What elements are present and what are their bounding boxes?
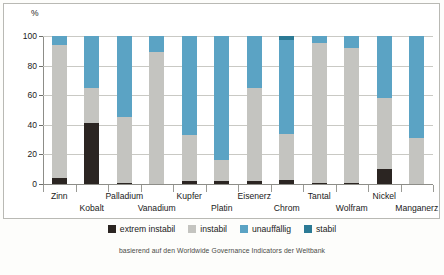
bar-segment [182, 181, 197, 184]
x-axis-label-eisenerz: Eisenerz [238, 191, 271, 201]
x-axis-tick [433, 185, 434, 192]
x-axis-label-manganerz: Manganerz [395, 203, 438, 213]
bar-manganerz [409, 36, 424, 184]
y-tick-mark-40 [39, 125, 43, 126]
bar-segment [52, 45, 67, 178]
bar-segment [279, 134, 294, 180]
bar-vanadium [149, 36, 164, 184]
bar-nickel [377, 36, 392, 184]
bar-zinn [52, 36, 67, 184]
bar-segment [84, 123, 99, 184]
y-tick-label-40: 40 [15, 120, 37, 130]
bar-segment [312, 183, 327, 184]
legend-label: extrem instabil [120, 224, 175, 234]
legend-swatch-icon [108, 225, 116, 233]
bar-kupfer [182, 36, 197, 184]
bar-chrom [279, 36, 294, 184]
y-tick-label-60: 60 [15, 90, 37, 100]
bar-segment [279, 40, 294, 133]
legend-swatch-icon [188, 225, 196, 233]
bar-segment [247, 88, 262, 181]
bar-segment [117, 183, 132, 184]
bar-segment [312, 43, 327, 182]
y-tick-mark-60 [39, 95, 43, 96]
x-axis: ZinnKobaltPalladiumVanadiumKupferPlatinE… [43, 185, 433, 219]
bar-segment [409, 36, 424, 138]
bar-segment [247, 36, 262, 88]
x-axis-label-palladium: Palladium [105, 191, 143, 201]
bar-segment [344, 48, 359, 183]
legend-item[interactable]: unauffällig [240, 224, 291, 234]
bar-wolfram [344, 36, 359, 184]
bar-tantal [312, 36, 327, 184]
bar-segment [214, 36, 229, 160]
x-axis-label-wolfram: Wolfram [336, 203, 368, 213]
plot-area [43, 36, 433, 184]
bar-segment [117, 36, 132, 117]
bar-segment [214, 181, 229, 184]
legend-label: instabil [200, 224, 227, 234]
y-tick-label-0: 0 [15, 179, 37, 189]
bar-eisenerz [247, 36, 262, 184]
legend-swatch-icon [240, 225, 248, 233]
bar-segment [377, 169, 392, 184]
x-axis-tick [43, 185, 44, 192]
gridline-40 [43, 125, 433, 126]
legend-item[interactable]: stabil [304, 224, 336, 234]
gridline-80 [43, 66, 433, 67]
legend-label: stabil [316, 224, 336, 234]
bar-segment [279, 180, 294, 184]
gridline-100 [43, 36, 433, 37]
x-axis-tick [368, 185, 369, 192]
bar-segment [149, 52, 164, 184]
bar-segment [52, 36, 67, 45]
x-axis-tick [401, 185, 402, 192]
x-axis-tick [303, 185, 304, 192]
y-tick-mark-100 [39, 36, 43, 37]
bar-segment [214, 160, 229, 181]
chart-page: % 100806040200 ZinnKobaltPalladiumVanadi… [0, 0, 444, 275]
bar-kobalt [84, 36, 99, 184]
legend-item[interactable]: instabil [188, 224, 227, 234]
x-axis-tick [206, 185, 207, 192]
bar-segment [182, 135, 197, 181]
legend-swatch-icon [304, 225, 312, 233]
x-axis-tick [76, 185, 77, 192]
bar-segment [117, 117, 132, 182]
bar-palladium [117, 36, 132, 184]
legend-item[interactable]: extrem instabil [108, 224, 175, 234]
y-tick-label-100: 100 [15, 31, 37, 41]
x-axis-label-chrom: Chrom [274, 203, 300, 213]
x-axis-tick [336, 185, 337, 192]
bar-segment [344, 183, 359, 184]
x-axis-label-tantal: Tantal [308, 191, 331, 201]
y-tick-mark-20 [39, 154, 43, 155]
gridline-20 [43, 154, 433, 155]
x-axis-label-kobalt: Kobalt [80, 203, 104, 213]
gridline-60 [43, 95, 433, 96]
bar-segment [84, 88, 99, 124]
bar-segment [312, 36, 327, 43]
x-axis-label-zinn: Zinn [51, 191, 68, 201]
bar-segment [409, 138, 424, 184]
bar-segment [247, 181, 262, 184]
legend-label: unauffällig [252, 224, 291, 234]
bar-segment [344, 36, 359, 48]
y-axis-unit-label: % [31, 8, 39, 18]
x-axis-label-nickel: Nickel [373, 191, 396, 201]
x-axis-label-kupfer: Kupfer [177, 191, 202, 201]
bar-segment [84, 36, 99, 88]
bar-segment [149, 36, 164, 52]
y-tick-label-20: 20 [15, 149, 37, 159]
bar-segment [182, 36, 197, 135]
x-axis-tick [173, 185, 174, 192]
y-tick-mark-80 [39, 66, 43, 67]
y-tick-label-80: 80 [15, 61, 37, 71]
bar-segment [377, 36, 392, 98]
bar-platin [214, 36, 229, 184]
x-axis-label-platin: Platin [211, 203, 233, 213]
source-note: basierend auf den Worldwide Governance I… [0, 247, 444, 254]
x-axis-label-vanadium: Vanadium [138, 203, 176, 213]
chart-legend: extrem instabilinstabilunauffälligstabil [0, 224, 444, 234]
bar-segment [377, 98, 392, 169]
